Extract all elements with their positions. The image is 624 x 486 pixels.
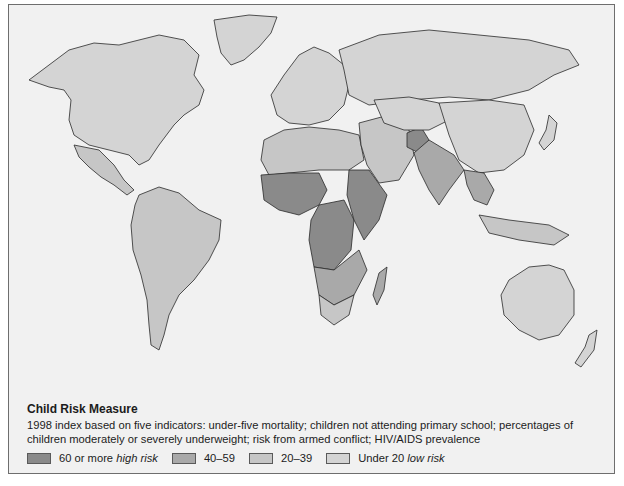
region-southeast-asia[interactable]: [464, 170, 494, 205]
region-russia[interactable]: [339, 30, 579, 105]
swatch-high: [27, 453, 51, 464]
legend-key-range: Under 20: [358, 452, 404, 464]
legend-key-range: 40–59: [204, 452, 235, 464]
region-greenland[interactable]: [214, 15, 277, 65]
legend-key-range: 60 or more: [59, 452, 113, 464]
region-north-africa[interactable]: [261, 127, 364, 175]
legend-keys: 60 or more high risk 40–59 20–39 Under 2…: [27, 452, 607, 464]
legend-key-range: 20–39: [281, 452, 312, 464]
region-madagascar[interactable]: [373, 267, 387, 305]
swatch-low-mid: [249, 453, 273, 464]
map-frame: Child Risk Measure 1998 index based on f…: [8, 4, 615, 474]
region-north-america[interactable]: [29, 35, 204, 165]
swatch-mid: [172, 453, 196, 464]
legend-key-high: 60 or more high risk: [27, 452, 158, 464]
legend: Child Risk Measure 1998 index based on f…: [27, 402, 607, 464]
legend-key-qualifier: low risk: [407, 452, 444, 464]
swatch-low: [326, 453, 350, 464]
region-australia[interactable]: [501, 265, 574, 340]
legend-key-qualifier: high risk: [116, 452, 158, 464]
legend-key-mid: 40–59: [172, 452, 235, 464]
region-new-zealand[interactable]: [575, 330, 597, 367]
legend-description: 1998 index based on five indicators: und…: [27, 418, 607, 446]
region-south-america[interactable]: [131, 187, 221, 350]
region-europe[interactable]: [271, 47, 349, 125]
legend-key-low: Under 20 low risk: [326, 452, 444, 464]
legend-title: Child Risk Measure: [27, 402, 607, 416]
world-map: [9, 5, 616, 395]
legend-key-low-mid: 20–39: [249, 452, 312, 464]
region-japan[interactable]: [539, 115, 557, 150]
region-indonesia[interactable]: [479, 215, 569, 245]
